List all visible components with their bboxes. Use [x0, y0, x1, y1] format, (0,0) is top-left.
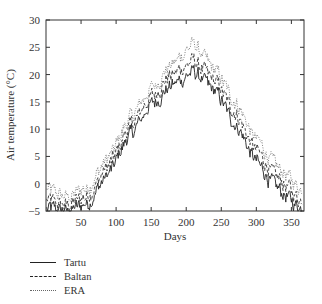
x-tick-label: 350: [283, 216, 300, 228]
plot-frame: [46, 20, 304, 211]
y-tick-label: 10: [29, 123, 41, 135]
legend-item-tartu: Tartu: [30, 255, 91, 269]
legend-label: Baltan: [64, 271, 91, 282]
y-tick-label: −5: [28, 205, 40, 217]
y-tick-label: 0: [35, 178, 41, 190]
legend: Tartu Baltan ERA: [30, 255, 91, 297]
y-tick-label: 15: [29, 96, 41, 108]
x-tick-label: 50: [76, 216, 88, 228]
legend-item-era: ERA: [30, 283, 91, 297]
x-tick-label: 150: [143, 216, 160, 228]
axis-ticks: 50100150200250300350−5051015202530: [28, 14, 304, 228]
dotted-line-icon: [30, 290, 56, 291]
y-tick-label: 30: [29, 14, 41, 26]
y-axis-label: Air temperature (°C): [4, 69, 17, 161]
x-axis-label: Days: [164, 230, 187, 242]
legend-label: Tartu: [64, 257, 86, 268]
x-tick-label: 300: [248, 216, 265, 228]
series-baltan-line: [47, 54, 302, 211]
y-tick-label: 20: [29, 69, 41, 81]
y-tick-label: 5: [35, 150, 41, 162]
y-tick-label: 25: [29, 41, 41, 53]
series-layer: [47, 37, 302, 211]
dashed-line-icon: [30, 276, 56, 277]
x-tick-label: 200: [178, 216, 195, 228]
legend-label: ERA: [64, 285, 85, 296]
series-tartu-line: [47, 65, 302, 211]
solid-line-icon: [30, 262, 56, 263]
x-tick-label: 250: [213, 216, 230, 228]
x-tick-label: 100: [108, 216, 125, 228]
legend-item-baltan: Baltan: [30, 269, 91, 283]
